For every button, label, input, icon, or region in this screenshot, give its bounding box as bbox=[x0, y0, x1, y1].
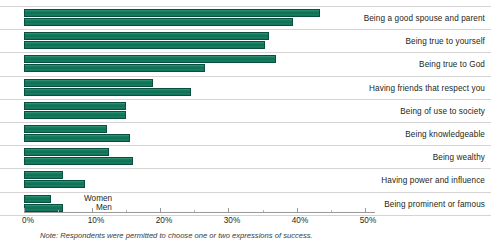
chart-row: Being a good spouse and parent bbox=[0, 6, 491, 30]
category-label: Being a good spouse and parent bbox=[364, 14, 485, 23]
axis-tick-major bbox=[160, 208, 161, 212]
axis-tick-major bbox=[297, 208, 298, 212]
legend-label-men: Men bbox=[96, 203, 112, 212]
chart-note: Note: Respondents were permitted to choo… bbox=[40, 231, 313, 240]
axis-tick-label-30: 30% bbox=[224, 216, 240, 225]
bar-women-row-6[interactable] bbox=[24, 125, 107, 133]
bar-women-row-8[interactable] bbox=[24, 171, 63, 179]
chart-row: Having friends that respect you bbox=[0, 77, 491, 100]
bar-women-row-3[interactable] bbox=[24, 55, 276, 63]
category-label: Being prominent or famous bbox=[384, 199, 485, 208]
axis-tick-minor bbox=[194, 210, 195, 213]
bar-women-row-9[interactable] bbox=[24, 195, 51, 203]
axis-tick-major bbox=[365, 208, 366, 212]
x-axis bbox=[24, 212, 375, 213]
category-label: Being true to God bbox=[419, 60, 485, 69]
chart-row: Having power and influence bbox=[0, 169, 491, 192]
axis-tick-minor bbox=[126, 210, 127, 213]
bar-women-row-5[interactable] bbox=[24, 102, 126, 110]
plot-area-row-3 bbox=[24, 53, 375, 75]
chart-row: Being wealthy bbox=[0, 146, 491, 169]
axis-tick-major bbox=[24, 208, 25, 212]
bar-women-row-1[interactable] bbox=[24, 9, 320, 17]
category-label: Being knowledgeable bbox=[405, 130, 485, 139]
axis-tick-major bbox=[92, 208, 93, 212]
plot-area-row-6 bbox=[24, 123, 375, 145]
bar-men-row-8[interactable] bbox=[24, 180, 85, 188]
plot-area-row-8 bbox=[24, 169, 375, 191]
axis-tick-minor bbox=[58, 210, 59, 213]
category-label: Having power and influence bbox=[381, 176, 485, 185]
category-label: Being of use to society bbox=[400, 106, 485, 115]
bar-women-row-4[interactable] bbox=[24, 79, 153, 87]
category-label: Having friends that respect you bbox=[369, 83, 485, 92]
chart-row: Being true to yourself bbox=[0, 30, 491, 53]
bar-men-row-6[interactable] bbox=[24, 134, 130, 142]
bar-men-row-4[interactable] bbox=[24, 88, 191, 96]
chart-container: Being a good spouse and parent Being tru… bbox=[0, 0, 491, 252]
axis-tick-minor bbox=[263, 210, 264, 213]
chart-row: Being of use to society bbox=[0, 100, 491, 123]
axis-tick-label-50: 50% bbox=[360, 216, 376, 225]
axis-tick-label-0: 0% bbox=[22, 216, 34, 225]
chart-row: Being knowledgeable bbox=[0, 123, 491, 146]
chart-rows: Being a good spouse and parent Being tru… bbox=[0, 6, 491, 216]
chart-row: Being true to God bbox=[0, 53, 491, 76]
axis-tick-minor bbox=[331, 210, 332, 213]
category-label: Being true to yourself bbox=[405, 37, 485, 46]
bar-men-row-7[interactable] bbox=[24, 157, 133, 165]
bar-men-row-1[interactable] bbox=[24, 18, 293, 26]
plot-area-row-5 bbox=[24, 100, 375, 122]
bar-women-row-2[interactable] bbox=[24, 32, 269, 40]
axis-tick-label-10: 10% bbox=[88, 216, 104, 225]
bar-men-row-9[interactable] bbox=[24, 204, 63, 212]
bar-men-row-3[interactable] bbox=[24, 64, 205, 72]
plot-area-row-7 bbox=[24, 146, 375, 168]
axis-tick-label-40: 40% bbox=[292, 216, 308, 225]
bar-women-row-7[interactable] bbox=[24, 148, 109, 156]
bar-men-row-2[interactable] bbox=[24, 41, 265, 49]
plot-area-row-1 bbox=[24, 7, 375, 29]
axis-tick-label-20: 20% bbox=[156, 216, 172, 225]
axis-tick-major bbox=[228, 208, 229, 212]
bar-men-row-5[interactable] bbox=[24, 111, 126, 119]
plot-area-row-2 bbox=[24, 30, 375, 52]
plot-area-row-4 bbox=[24, 77, 375, 99]
legend-label-women: Women bbox=[84, 194, 112, 203]
category-label: Being wealthy bbox=[433, 153, 485, 162]
